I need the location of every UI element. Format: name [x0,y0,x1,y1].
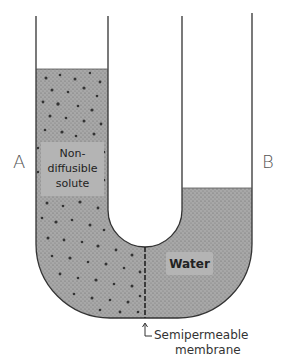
side-a-label: A [13,151,25,172]
u-tube-diagram: Non- diffusible solute Water A B Semiper… [0,0,287,358]
water-label: Water [169,257,210,271]
side-b-label: B [262,151,274,172]
solute-label-line1: Non- [60,147,86,160]
solute-label-line2: diffusible [47,162,97,175]
membrane-pointer-arrow-icon [143,323,153,336]
membrane-caption-line2: membrane [175,343,241,357]
solute-label-line3: solute [56,177,90,190]
tube-inner-wall [108,16,182,247]
membrane-caption-line1: Semipermeable [154,328,249,342]
